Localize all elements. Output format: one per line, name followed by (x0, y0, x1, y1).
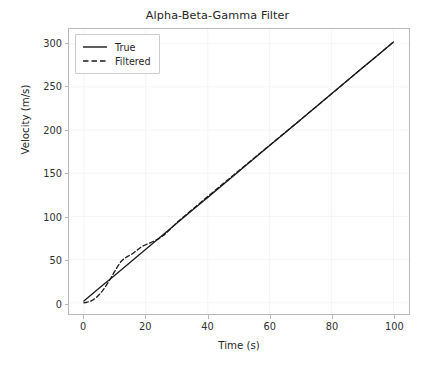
x-tick-mark (270, 315, 271, 319)
y-tick-label: 200 (43, 124, 62, 135)
x-tick-label: 0 (80, 321, 86, 332)
x-tick-label: 60 (264, 321, 276, 332)
x-tick-label: 20 (139, 321, 151, 332)
x-tick-mark (145, 315, 146, 319)
y-axis-label: Velocity (m/s) (20, 40, 31, 200)
legend-label-true: True (115, 42, 135, 53)
y-tick-label: 100 (43, 211, 62, 222)
legend-label-filtered: Filtered (115, 56, 151, 67)
chart-title: Alpha-Beta-Gamma Filter (0, 9, 435, 22)
dashed-line-icon (82, 56, 108, 66)
x-tick-mark (394, 315, 395, 319)
y-tick-label: 0 (56, 298, 62, 309)
chart-figure: Alpha-Beta-Gamma Filter 0501001502002503… (0, 0, 435, 365)
x-tick-mark (332, 315, 333, 319)
solid-line-icon (82, 42, 108, 52)
y-tick-label: 50 (50, 255, 62, 266)
y-tick-label: 250 (43, 81, 62, 92)
legend-item-true: True (82, 40, 151, 54)
x-tick-label: 80 (326, 321, 338, 332)
y-tick-label: 150 (43, 168, 62, 179)
chart-legend[interactable]: True Filtered (75, 34, 160, 74)
y-tick-label: 300 (43, 37, 62, 48)
series-filtered (84, 42, 394, 303)
legend-item-filtered: Filtered (82, 54, 151, 68)
x-tick-label: 100 (385, 321, 404, 332)
x-axis-label: Time (s) (68, 340, 410, 351)
x-tick-mark (83, 315, 84, 319)
x-tick-mark (208, 315, 209, 319)
x-tick-label: 40 (201, 321, 213, 332)
plot-area: True Filtered (68, 28, 410, 315)
